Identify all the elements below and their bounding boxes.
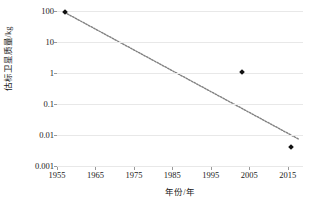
chart-container: 估标卫星质量/kg 1001010.10.010.001 19551965197… — [0, 0, 310, 208]
y-axis-tick-mark — [54, 11, 57, 12]
y-axis-tick-mark — [54, 104, 57, 105]
trendline — [57, 11, 303, 166]
x-axis-tick-label: 1985 — [152, 170, 192, 181]
y-axis-tick-label: 0.01 — [20, 131, 54, 140]
x-axis-tick-label: 2015 — [268, 170, 308, 181]
y-axis-tick-label: 10 — [20, 38, 54, 47]
x-axis-tick-label: 1995 — [191, 170, 231, 181]
x-axis-tick-label: 1955 — [37, 170, 77, 181]
y-axis-tick-label: 100 — [20, 7, 54, 16]
gridline — [57, 73, 303, 74]
y-axis-tick-label: 0.1 — [20, 100, 54, 109]
x-axis-tick-label: 1965 — [75, 170, 115, 181]
y-axis-tick-mark — [54, 42, 57, 43]
x-axis-tick-labels: 1955196519751985199520052015 — [57, 170, 303, 182]
gridline — [57, 42, 303, 43]
x-axis-tick-label: 2005 — [229, 170, 269, 181]
trendline-segment — [65, 12, 299, 139]
x-axis-title: 年份/年 — [57, 185, 303, 197]
x-axis-tick-label: 1975 — [114, 170, 154, 181]
gridline — [57, 11, 303, 12]
y-axis-tick-mark — [54, 73, 57, 74]
gridline — [57, 104, 303, 105]
plot-area — [57, 11, 303, 166]
y-axis-tick-mark — [54, 135, 57, 136]
gridline — [57, 135, 303, 136]
y-axis-title: 估标卫星质量/kg — [1, 0, 15, 119]
y-axis-tick-label: 1 — [20, 69, 54, 78]
